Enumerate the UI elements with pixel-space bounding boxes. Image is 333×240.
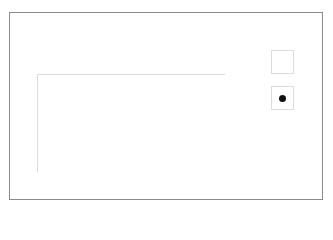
purl-dot-icon: [279, 95, 286, 102]
key-purl-symbol: [271, 86, 294, 110]
key-knit-symbol: [271, 50, 294, 74]
stitch-grid: [37, 74, 225, 172]
